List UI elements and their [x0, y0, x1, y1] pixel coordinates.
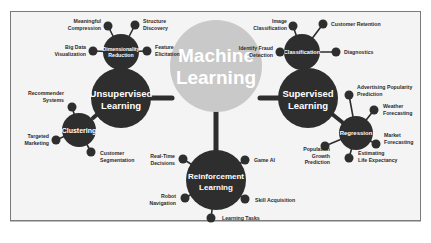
leaf-population-growth-line2: Growth — [312, 153, 330, 159]
leaf-robot-navigation-line2: Navigation — [149, 200, 176, 206]
leaf-dot-skill-acquisition — [241, 195, 250, 204]
node-unsupervised-learning: Unsupervised Learning — [90, 68, 153, 128]
leaf-dot-structure-discovery — [131, 21, 140, 30]
leaf-market-forecasting-line2: Forecasting — [384, 139, 413, 145]
leaf-real-time-decisions-line2: Decisions — [150, 160, 175, 166]
leaf-estimating-life-expectancy-line1: Estimating — [358, 150, 385, 156]
leaf-feature-elicitation-line1: Feature — [155, 44, 174, 50]
node-clustering: Clustering — [62, 113, 97, 147]
leaf-market-forecasting-line1: Market — [384, 132, 401, 138]
leaf-customer-retention: Customer Retention — [331, 21, 381, 27]
leaf-dot-weather-forecasting — [370, 106, 379, 115]
leaf-targeted-marketing-line2: Marketing — [24, 140, 49, 146]
leaf-skill-acquisition: Skill Acquisition — [255, 197, 295, 203]
leaf-dot-meaningful-compression — [104, 22, 113, 31]
leaf-big-data-visualization-line1: Big Data — [65, 44, 86, 50]
leaf-weather-forecasting-line2: Forecasting — [383, 110, 412, 116]
leaf-population-growth-line1: Population — [303, 146, 330, 152]
node-reinforcement-learning: Reinforcement Learning — [186, 150, 246, 210]
leaf-customer-segmentation-line1: Customer — [100, 150, 124, 156]
dimensionality-line2: Reduction — [108, 52, 133, 58]
clustering-label: Clustering — [62, 127, 97, 135]
leaf-meaningful-compression-line2: Compression — [68, 25, 101, 31]
regression-label: Regression — [340, 130, 373, 136]
leaf-estimating-life-expectancy-line2: Life Expectancy — [358, 157, 398, 163]
leaf-customer-segmentation-line2: Segmentation — [100, 157, 134, 163]
leaf-dot-image-classification — [289, 22, 298, 31]
leaf-meaningful-compression-line1: Meaningful — [74, 18, 102, 24]
unsupervised-line1: Unsupervised — [90, 88, 153, 99]
leaf-robot-navigation-line1: Robot — [161, 193, 176, 199]
leaf-dot-estimating-life-expectancy — [345, 154, 354, 163]
leaf-population-growth-line3: Prediction — [305, 159, 330, 165]
node-classification: Classification — [284, 34, 321, 70]
leaf-identify-fraud-line1: Identify Fraud — [239, 45, 273, 51]
leaf-dot-targeted-marketing — [52, 136, 61, 145]
leaf-dot-customer-segmentation — [87, 148, 96, 157]
leaf-real-time-decisions-line1: Real-Time — [150, 153, 175, 159]
leaf-image-classification-line2: Classification — [253, 25, 287, 31]
classification-label: Classification — [284, 49, 321, 55]
leaf-recommender-systems-line2: Systems — [43, 97, 64, 103]
leaf-structure-discovery-line2: Discovery — [143, 25, 168, 31]
leaf-dot-identify-fraud-detection — [276, 48, 285, 57]
unsupervised-line2: Learning — [101, 100, 141, 111]
leaf-game-ai: Game AI — [254, 157, 275, 163]
leaf-weather-forecasting-line1: Weather — [383, 103, 403, 109]
leaf-dot-robot-navigation — [181, 194, 190, 203]
node-supervised-learning: Supervised Learning — [278, 68, 338, 128]
leaf-dot-real-time-decisions — [179, 155, 188, 164]
leaf-recommender-systems-line1: Recommender — [28, 90, 64, 96]
leaf-advertising-popularity-line1: Advertising Popularity — [357, 84, 412, 90]
reinforcement-line2: Learning — [199, 183, 233, 192]
center-title-line2: Learning — [176, 67, 256, 88]
leaf-diagnostics: Diagnostics — [344, 49, 374, 55]
leaf-image-classification-line1: Image — [272, 18, 287, 24]
leaf-structure-discovery-line1: Structure — [143, 18, 166, 24]
machine-learning-mind-map: Machine Learning Unsupervised Learning D… — [0, 0, 431, 243]
leaf-feature-elicitation-line2: Elicitation — [155, 51, 180, 57]
connector-supervised-regression — [332, 114, 342, 122]
leaf-dot-recommender-systems — [68, 103, 77, 112]
leaf-dot-market-forecasting — [372, 140, 381, 149]
supervised-line1: Supervised — [282, 88, 333, 99]
leaf-dot-game-ai — [241, 156, 250, 165]
reinforcement-line1: Reinforcement — [188, 172, 244, 181]
supervised-line2: Learning — [288, 100, 328, 111]
leaf-targeted-marketing-line1: Targeted — [27, 133, 49, 139]
center-circle — [170, 20, 262, 112]
leaf-dot-learning-tasks — [207, 214, 216, 223]
leaf-advertising-popularity-line2: Prediction — [357, 91, 382, 97]
node-dimensionality-reduction: Dimensionality Reduction — [103, 34, 140, 70]
leaf-identify-fraud-line2: Detection — [249, 52, 273, 58]
node-regression: Regression — [339, 116, 373, 150]
leaf-learning-tasks: Learning Tasks — [222, 215, 260, 221]
leaf-dot-big-data-visualization — [89, 47, 98, 56]
leaf-dot-feature-elicitation — [143, 47, 152, 56]
node-machine-learning: Machine Learning — [170, 20, 262, 112]
leaf-dot-advertising-popularity — [345, 91, 354, 100]
leaf-dot-customer-retention — [319, 20, 328, 29]
leaf-big-data-visualization-line2: Visualization — [54, 51, 86, 57]
leaf-dot-diagnostics — [332, 48, 341, 57]
